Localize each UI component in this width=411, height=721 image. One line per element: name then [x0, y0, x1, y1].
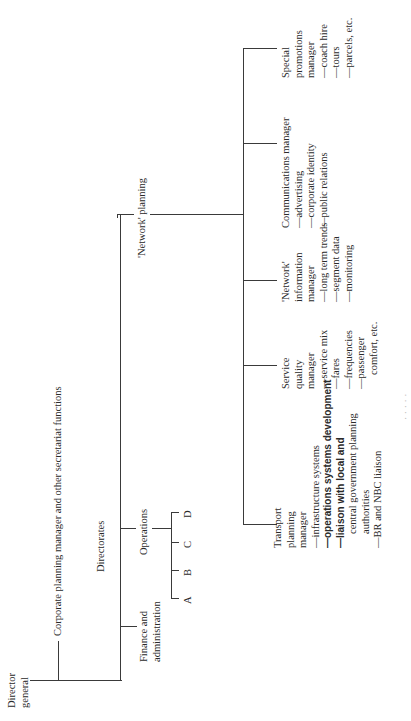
node-network-planning: 'Network' planning [136, 178, 149, 258]
division-d: D [182, 510, 195, 518]
node-finance-administration: Finance and administration [138, 601, 163, 662]
caption-fragment: · · · · · [400, 393, 411, 420]
connector-operations-a [120, 528, 136, 529]
connector-service-quality [243, 365, 277, 366]
node-director-general: Director general [6, 673, 31, 708]
division-b: B [182, 569, 195, 576]
connector-operations-divisions [171, 512, 172, 599]
connector-operations-b [152, 528, 172, 529]
director-label-line1: Director [6, 673, 19, 708]
node-corporate-planning: Corporate planning manager and other sec… [52, 386, 65, 636]
connector-corporate [58, 641, 59, 681]
connector-network-b [150, 214, 244, 215]
corporate-planning-label: Corporate planning manager and other sec… [52, 386, 63, 636]
connector-root [30, 680, 122, 681]
connector-finance [120, 626, 137, 627]
connector-managers-trunk [243, 48, 244, 525]
connector-directorates-trunk [120, 214, 121, 681]
division-a: A [182, 596, 195, 604]
connector-division-d [171, 512, 179, 513]
director-label-line2: general [19, 673, 32, 708]
connector-network-a [117, 214, 134, 215]
node-transport-planning-manager: Transport planning manager —infrastructu… [272, 380, 385, 548]
connector-division-c [171, 542, 179, 543]
connector-division-a [171, 598, 179, 599]
division-c: C [182, 541, 195, 548]
connector-communications [243, 143, 277, 144]
org-chart: Director general Corporate planning mana… [0, 0, 411, 721]
connector-network-information [243, 280, 277, 281]
connector-special-promotions [243, 48, 277, 49]
node-network-information-manager: 'Network' information manager —long term… [280, 223, 355, 302]
node-communications-manager: Communications manager —advertising —cor… [280, 117, 330, 228]
node-service-quality-manager: Service quality manager —service mix —fa… [280, 322, 380, 389]
node-operations: Operations [138, 509, 151, 555]
node-special-promotions-manager: Special promotions manager —coach hire —… [280, 18, 355, 78]
directorates-label: Directorates [95, 521, 108, 572]
connector-division-b [171, 570, 179, 571]
